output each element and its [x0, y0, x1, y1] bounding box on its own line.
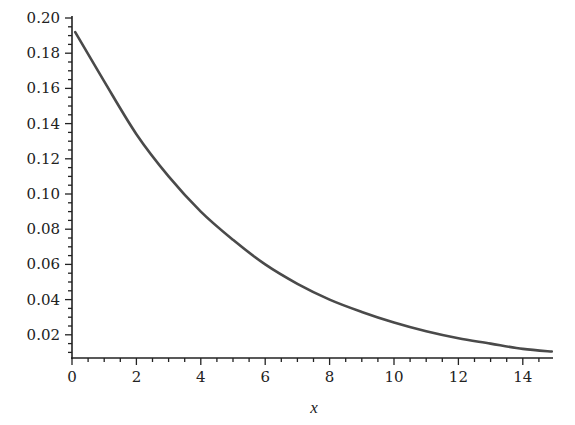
y-tick-label: 0.10: [27, 185, 60, 203]
y-tick-label: 0.12: [27, 150, 60, 168]
x-tick-label: 14: [513, 368, 532, 386]
x-tick-label: 2: [132, 368, 142, 386]
y-tick-label: 0.20: [27, 9, 60, 27]
ticks: [65, 18, 539, 365]
y-tick-label: 0.06: [27, 255, 60, 273]
y-tick-label: 0.02: [27, 326, 60, 344]
tick-labels: 0.020.040.060.080.100.120.140.160.180.20…: [27, 9, 533, 386]
y-tick-label: 0.14: [27, 115, 60, 133]
y-tick-label: 0.18: [27, 44, 60, 62]
axes: [71, 16, 553, 359]
x-tick-label: 8: [325, 368, 335, 386]
x-tick-label: 6: [260, 368, 270, 386]
x-tick-label: 12: [449, 368, 468, 386]
line-chart: 0.020.040.060.080.100.120.140.160.180.20…: [0, 0, 575, 425]
data-curve: [75, 32, 552, 351]
y-tick-label: 0.16: [27, 79, 60, 97]
x-tick-label: 10: [384, 368, 403, 386]
x-tick-label: 0: [67, 368, 77, 386]
x-tick-label: 4: [196, 368, 206, 386]
y-tick-label: 0.04: [27, 291, 60, 309]
x-axis-label: x: [309, 398, 318, 417]
y-tick-label: 0.08: [27, 220, 60, 238]
